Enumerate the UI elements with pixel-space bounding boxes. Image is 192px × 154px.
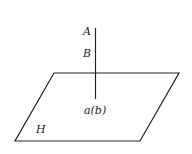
diagram-canvas: A B a(b) H xyxy=(0,0,192,154)
label-plane-h: H xyxy=(35,123,46,136)
label-projection-ab: a(b) xyxy=(84,104,106,117)
label-point-b: B xyxy=(82,47,91,60)
label-point-a: A xyxy=(82,25,91,38)
